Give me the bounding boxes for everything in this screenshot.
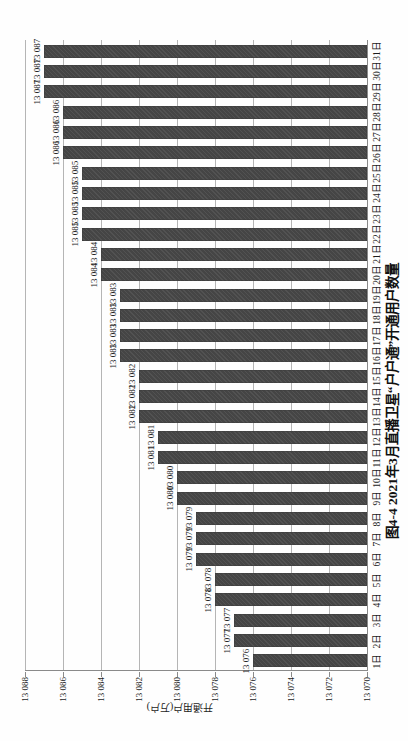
- bar-value-label: 13 087: [32, 24, 42, 78]
- value-tick-label: 13 070: [362, 677, 373, 727]
- bar-day-24日: [82, 187, 367, 200]
- bar-day-6日: [196, 553, 367, 566]
- bar-day-25日: [82, 167, 367, 180]
- value-tick-label: 13 080: [172, 677, 183, 727]
- bar-day-27日: [63, 126, 367, 139]
- chart-title: 图4-4 2021年3月直播卫星“户户通”开通用户数量: [384, 161, 401, 641]
- bar-day-16日: [120, 349, 367, 362]
- bar-day-26日: [63, 146, 367, 159]
- bar-day-12日: [158, 431, 367, 444]
- bar-day-10日: [177, 471, 367, 484]
- bar-day-29日: [44, 85, 367, 98]
- bar-day-28日: [63, 106, 367, 119]
- value-tick-label: 13 086: [58, 677, 69, 727]
- value-tick-label: 13 088: [20, 677, 31, 727]
- bar-day-19日: [120, 289, 367, 302]
- bar-day-4日: [215, 593, 367, 606]
- gridline: [25, 40, 26, 670]
- bar-day-21日: [101, 248, 367, 261]
- bar-day-23日: [82, 207, 367, 220]
- bar-day-20日: [101, 268, 367, 281]
- bar-day-13日: [139, 410, 367, 423]
- bar-day-7日: [196, 532, 367, 545]
- bar-day-11日: [158, 451, 367, 464]
- bar-day-18日: [120, 309, 367, 322]
- bar-day-5日: [215, 573, 367, 586]
- value-tick-label: 13 072: [324, 677, 335, 727]
- bar-day-17日: [120, 329, 367, 342]
- bar-day-30日: [44, 65, 367, 78]
- day-tick-label: 31日: [372, 31, 383, 71]
- bar-day-22日: [82, 228, 367, 241]
- bar-day-14日: [139, 390, 367, 403]
- rotated-figure: 开通用户(万户) 图4-4 2021年3月直播卫星“户户通”开通用户数量 13 …: [0, 0, 408, 741]
- bar-day-1日: [253, 654, 367, 667]
- bar-day-31日: [44, 45, 367, 58]
- value-tick-label: 13 084: [96, 677, 107, 727]
- bar-day-8日: [196, 512, 367, 525]
- value-tick-label: 13 082: [134, 677, 145, 727]
- book-page: 开通用户(万户) 图4-4 2021年3月直播卫星“户户通”开通用户数量 13 …: [0, 0, 408, 741]
- bar-day-9日: [177, 492, 367, 505]
- value-tick-label: 13 078: [210, 677, 221, 727]
- bar-day-3日: [234, 614, 367, 627]
- bar-day-2日: [234, 634, 367, 647]
- value-tick-label: 13 074: [286, 677, 297, 727]
- bar-day-15日: [139, 370, 367, 383]
